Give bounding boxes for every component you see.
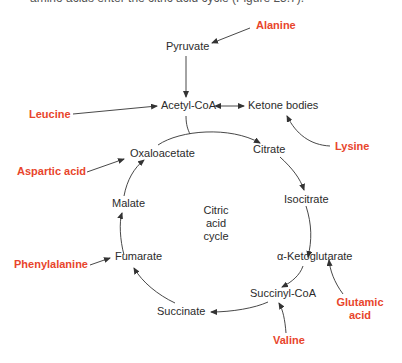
intermediate-ketone-bodies: Ketone bodies [248,99,318,112]
glutamic-acid-line-1: Glutamic [335,296,385,309]
amino-acid-valine: Valine [273,334,305,347]
amino-acid-leucine: Leucine [29,108,71,121]
intermediate-acetyl-coa: Acetyl-CoA [161,99,216,112]
intermediate-oxaloacetate: Oxaloacetate [130,147,195,160]
center-label-line-3: cycle [200,230,232,243]
center-label-line-1: Citric [200,204,232,217]
amino-acid-aspartic-acid: Aspartic acid [17,165,86,178]
amino-acid-alanine: Alanine [256,19,296,32]
amino-acid-glutamic-acid: Glutamic acid [335,296,385,322]
intermediate-fumarate: Fumarate [115,250,162,263]
intermediate-pyruvate: Pyruvate [166,40,209,53]
intermediate-succinate: Succinate [157,305,205,318]
glutamic-acid-line-2: acid [335,309,385,322]
intermediate-succinyl-coa: Succinyl-CoA [250,287,316,300]
intermediate-isocitrate: Isocitrate [284,193,329,206]
intermediate-alpha-ketoglutarate: α-Ketoglutarate [277,250,352,263]
intermediate-citrate: Citrate [253,143,285,156]
center-label: Citric acid cycle [200,204,232,243]
center-label-line-2: acid [200,217,232,230]
intermediate-malate: Malate [112,197,145,210]
amino-acid-phenylalanine: Phenylalanine [14,258,88,271]
amino-acid-lysine: Lysine [335,140,369,153]
